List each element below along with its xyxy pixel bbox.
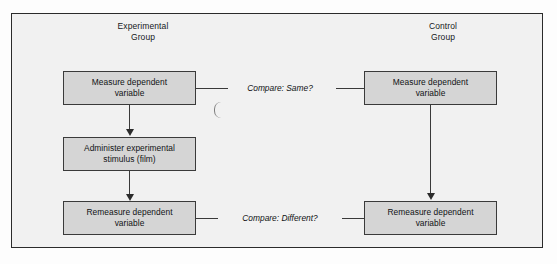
node-experimental-measure-dependent-variable: Measure dependent variable (63, 71, 196, 105)
arrowhead-down-icon (427, 193, 435, 200)
diagram-frame: Experimental Group Control Group Measure… (11, 13, 543, 248)
connector-compare-same: Compare: Same? (196, 78, 364, 98)
arrowhead-down-icon (126, 194, 134, 201)
connector-line-experimental-bottom (129, 171, 130, 194)
connector-label-compare-different: Compare: Different? (240, 208, 319, 228)
node-experimental-remeasure-dependent-variable: Remeasure dependent variable (63, 201, 196, 235)
connector-segment-right (336, 88, 364, 89)
connector-label-compare-same: Compare: Same? (245, 78, 315, 98)
scan-artifact-mark (214, 102, 221, 118)
connector-line-control (430, 105, 431, 194)
node-administer-experimental-stimulus: Administer experimental stimulus (film) (63, 137, 196, 171)
connector-compare-different: Compare: Different? (196, 208, 364, 228)
node-control-remeasure-dependent-variable: Remeasure dependent variable (364, 201, 497, 235)
arrowhead-down-icon (126, 129, 134, 136)
column-header-control-group: Control Group (378, 21, 508, 42)
connector-line-experimental-top (129, 105, 130, 130)
connector-segment-right (342, 218, 364, 219)
connector-segment-left (196, 88, 228, 89)
node-control-measure-dependent-variable: Measure dependent variable (364, 71, 497, 105)
column-header-experimental-group: Experimental Group (78, 21, 208, 42)
connector-segment-left (196, 218, 218, 219)
